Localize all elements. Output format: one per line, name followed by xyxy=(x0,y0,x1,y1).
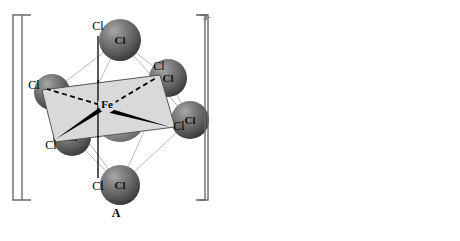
ligand-label-left-front: Cl xyxy=(45,138,57,152)
chemistry-figure: Cl Cl Cl Fe xyxy=(0,0,460,241)
panel-b-drawing: Fe Cl Cl Cl Cl Cl Cl xyxy=(0,0,230,241)
center-atom-label: Fe xyxy=(101,98,113,110)
bracket-right xyxy=(199,15,208,200)
ligand-label-axial-bottom: Cl xyxy=(92,179,104,193)
center-atom-fe: Fe xyxy=(98,95,116,113)
ligand-label-axial-top: Cl xyxy=(92,19,104,33)
ligand-label-right-rear: Cl xyxy=(153,59,165,73)
ligand-label-right-front: Cl xyxy=(173,119,185,133)
panel-b-octahedral-2d: Fe Cl Cl Cl Cl Cl Cl 3- B xyxy=(230,0,460,241)
bracket-left xyxy=(13,15,22,200)
ligand-label-left-rear: Cl xyxy=(28,78,40,92)
